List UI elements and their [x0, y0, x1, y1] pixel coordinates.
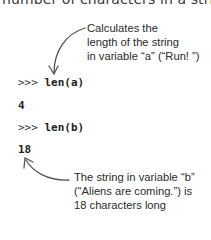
curved-arrow-down-icon: [49, 28, 85, 74]
annotation-line: Calculates the: [87, 21, 200, 35]
curved-arrow-up-left-icon: [24, 158, 69, 180]
annotation-len-b: The string in variable “b” (“Aliens are …: [74, 170, 195, 212]
annotation-len-a: Calculates the length of the string in v…: [87, 21, 200, 63]
code-line-len-a: >>> len(a): [18, 76, 84, 89]
annotation-line: length of the string: [87, 35, 200, 49]
annotation-line: in variable “a” (“Run! ”): [87, 49, 200, 63]
prompt: >>>: [18, 76, 45, 89]
output-line: 4: [18, 99, 25, 112]
annotation-line: (“Aliens are coming.”) is: [74, 184, 195, 198]
command: len(a): [45, 76, 85, 89]
prompt: >>>: [18, 121, 45, 134]
code-line-len-b: >>> len(b): [18, 121, 84, 134]
annotation-line: 18 characters long: [74, 198, 195, 212]
output-line: 18: [18, 143, 31, 156]
annotation-line: The string in variable “b”: [74, 170, 195, 184]
command: len(b): [45, 121, 85, 134]
